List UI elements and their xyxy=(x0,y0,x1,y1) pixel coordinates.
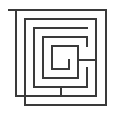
maze-canvas xyxy=(0,0,115,115)
maze-figure xyxy=(0,0,115,115)
maze-background xyxy=(0,0,115,115)
